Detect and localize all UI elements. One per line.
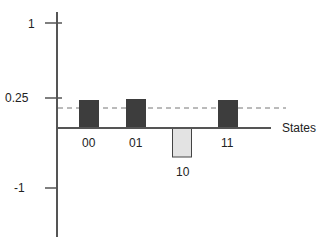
- category-label-10: 10: [176, 165, 190, 179]
- y-tick-label-025: 0.25: [5, 91, 29, 105]
- category-label-11: 11: [221, 136, 234, 150]
- x-axis-label: States: [282, 121, 316, 135]
- bar-00: [79, 100, 99, 128]
- bar-11: [218, 100, 238, 128]
- y-tick-label-1: 1: [28, 17, 35, 31]
- bar-01: [126, 99, 146, 128]
- category-label-01: 01: [129, 136, 143, 150]
- category-label-00: 00: [82, 136, 96, 150]
- bar-10: [173, 128, 192, 157]
- y-tick-label-m1: -1: [14, 181, 25, 195]
- amplitude-bar-chart: 1 0.25 -1 States 00 01 10 11: [0, 0, 323, 249]
